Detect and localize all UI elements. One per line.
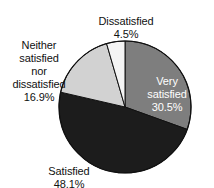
slice-label-very-satisfied-text: Very satisfied	[147, 75, 186, 100]
pie-chart: Dissatisfied 4.5% Neither satisfied nor …	[0, 0, 214, 188]
slice-label-neither: Neither satisfied nor dissatisfied 16.9%	[0, 26, 78, 117]
slice-label-dissatisfied: Dissatisfied 4.5%	[80, 2, 172, 54]
slice-label-neither-percent: 16.9%	[0, 91, 78, 104]
slice-label-neither-text: Neither satisfied nor dissatisfied	[12, 39, 65, 90]
slice-label-dissatisfied-percent: 4.5%	[80, 28, 172, 41]
slice-label-dissatisfied-text: Dissatisfied	[98, 15, 153, 27]
slice-label-very-satisfied: Very satisfied 30.5%	[136, 62, 198, 127]
slice-label-satisfied-percent: 48.1%	[26, 178, 112, 188]
slice-label-very-satisfied-percent: 30.5%	[136, 101, 198, 114]
slice-label-satisfied: Satisfied 48.1%	[26, 152, 112, 188]
slice-label-satisfied-text: Satisfied	[48, 165, 89, 177]
